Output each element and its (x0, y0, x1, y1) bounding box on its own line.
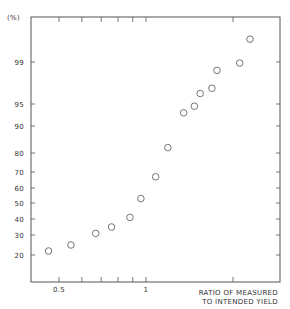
data-point-circle (152, 174, 159, 181)
plot-frame (31, 17, 280, 282)
y-tick-label: 80 (14, 150, 24, 158)
data-point-circle (68, 242, 75, 249)
axis-ticks: 0.5199959080706050403020 (14, 17, 280, 294)
y-tick-label: 20 (14, 252, 24, 260)
y-tick-label: 60 (14, 185, 24, 193)
x-tick-label: 0.5 (53, 286, 65, 294)
data-point-circle (127, 214, 134, 221)
y-axis-unit-label: (%) (7, 14, 20, 22)
data-point-circle (180, 110, 187, 117)
data-point-circle (45, 248, 52, 255)
data-point-circle (138, 195, 145, 202)
data-point-circle (209, 85, 216, 92)
data-point-circle (108, 224, 115, 231)
x-axis-label-line1: RATIO OF MEASURED (199, 289, 278, 297)
data-point-circle (247, 36, 254, 43)
data-points (45, 36, 253, 254)
y-tick-label: 50 (14, 200, 24, 208)
y-tick-label: 95 (14, 101, 24, 109)
data-point-circle (236, 60, 243, 67)
y-tick-label: 90 (14, 123, 24, 131)
x-tick-label: 1 (144, 286, 149, 294)
x-axis-label-line2: TO INTENDED YIELD (201, 298, 278, 306)
probability-plot: 0.5199959080706050403020 (%) RATIO OF ME… (0, 0, 290, 309)
y-tick-label: 99 (14, 59, 24, 67)
data-point-circle (191, 103, 198, 110)
data-point-circle (197, 90, 204, 97)
data-point-circle (92, 230, 99, 237)
data-point-circle (165, 144, 172, 151)
data-point-circle (214, 67, 221, 74)
y-tick-label: 40 (14, 216, 24, 224)
y-tick-label: 30 (14, 232, 24, 240)
y-tick-label: 70 (14, 169, 24, 177)
